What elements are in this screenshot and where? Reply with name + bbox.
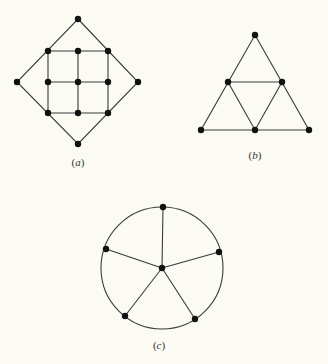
- vertex: [279, 79, 285, 85]
- diagram-a: (a): [14, 16, 141, 169]
- vertex: [192, 316, 198, 322]
- vertex: [122, 313, 128, 319]
- vertex: [306, 127, 312, 133]
- vertex: [105, 79, 111, 85]
- vertex: [216, 249, 222, 255]
- center-vertex: [159, 265, 165, 271]
- diagram-b: (b): [198, 32, 312, 162]
- caption-a: (a): [72, 156, 85, 169]
- spokes: [106, 207, 219, 319]
- vertex: [75, 110, 81, 116]
- vertex: [198, 127, 204, 133]
- vertex: [14, 79, 20, 85]
- vertex: [75, 16, 81, 22]
- vertex: [75, 141, 81, 147]
- vertex: [45, 110, 51, 116]
- diagram-a-nodes: [14, 16, 141, 147]
- vertex: [252, 127, 258, 133]
- vertex: [225, 79, 231, 85]
- diagram-c: (c): [101, 204, 223, 352]
- vertex: [135, 79, 141, 85]
- caption-c: (c): [153, 339, 166, 352]
- vertex: [75, 79, 81, 85]
- vertex: [160, 204, 166, 210]
- vertex: [252, 32, 258, 38]
- inner-triangle: [228, 82, 282, 130]
- vertex: [45, 48, 51, 54]
- vertex: [105, 110, 111, 116]
- vertex: [45, 79, 51, 85]
- figure-canvas: (a) (b): [0, 0, 328, 364]
- vertex: [103, 246, 109, 252]
- vertex: [105, 48, 111, 54]
- vertex: [75, 48, 81, 54]
- caption-b: (b): [249, 149, 262, 162]
